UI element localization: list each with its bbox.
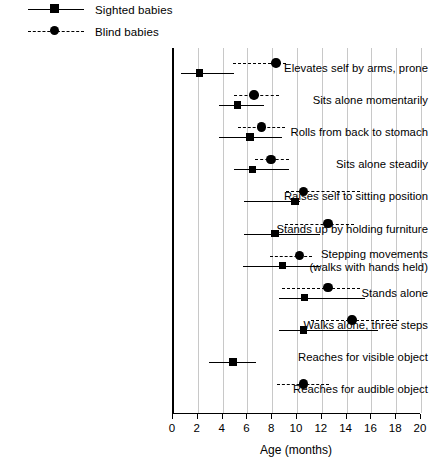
x-tick-label-6: 6	[234, 422, 258, 434]
gridline-0	[173, 48, 174, 413]
x-tick-20	[420, 414, 421, 419]
category-label: Elevates self by arms, prone	[268, 62, 436, 75]
category-label: Reaches for visible object	[268, 351, 436, 364]
gridline-2	[198, 48, 199, 413]
median-marker-sighted	[246, 133, 254, 141]
median-marker-sighted	[249, 166, 257, 174]
x-tick-6	[246, 414, 247, 419]
gridline-6	[247, 48, 248, 413]
median-marker-blind	[299, 379, 309, 389]
median-marker-blind	[257, 122, 267, 132]
range-line-blind	[270, 256, 312, 257]
range-line-sighted	[279, 298, 366, 299]
x-tick-label-10: 10	[284, 422, 308, 434]
category-label: Sits alone momentarily	[268, 94, 436, 107]
x-tick-16	[370, 414, 371, 419]
median-marker-sighted	[196, 69, 204, 77]
range-line-sighted	[234, 169, 289, 170]
median-marker-sighted	[234, 101, 242, 109]
x-axis: 02468101214161820	[172, 413, 420, 414]
x-axis-title: Age (months)	[172, 443, 420, 457]
gridline-4	[223, 48, 224, 413]
range-dot-chart: 02468101214161820 Age (months) Elevates …	[0, 0, 436, 470]
median-marker-blind	[347, 315, 357, 325]
median-marker-sighted	[229, 358, 237, 366]
range-line-blind	[286, 191, 360, 192]
x-tick-label-14: 14	[334, 422, 358, 434]
range-line-blind	[282, 288, 360, 289]
x-tick-label-8: 8	[259, 422, 283, 434]
x-tick-label-20: 20	[408, 422, 432, 434]
x-tick-label-16: 16	[358, 422, 382, 434]
median-marker-sighted	[301, 294, 309, 302]
x-tick-label-18: 18	[383, 422, 407, 434]
x-tick-14	[346, 414, 347, 419]
x-tick-8	[271, 414, 272, 419]
median-marker-blind	[271, 58, 281, 68]
range-line-sighted	[279, 330, 378, 331]
range-line-blind	[285, 224, 354, 225]
x-tick-18	[395, 414, 396, 419]
x-tick-label-12: 12	[309, 422, 333, 434]
category-label: Sits alone steadily	[268, 158, 436, 171]
median-marker-blind	[266, 155, 276, 165]
median-marker-sighted	[279, 262, 287, 270]
category-label: Stepping movements (walks with hands hel…	[268, 248, 436, 273]
median-marker-sighted	[271, 230, 279, 238]
category-label: Rolls from back to stomach	[268, 126, 436, 139]
median-marker-blind	[249, 90, 259, 100]
median-marker-sighted	[300, 326, 308, 334]
range-line-sighted	[181, 73, 234, 74]
x-tick-12	[321, 414, 322, 419]
median-marker-sighted	[291, 198, 299, 206]
x-tick-label-0: 0	[160, 422, 184, 434]
range-line-sighted	[244, 234, 320, 235]
x-tick-4	[222, 414, 223, 419]
x-tick-label-4: 4	[210, 422, 234, 434]
x-tick-2	[197, 414, 198, 419]
x-tick-label-2: 2	[185, 422, 209, 434]
x-tick-10	[296, 414, 297, 419]
x-tick-0	[172, 414, 173, 419]
